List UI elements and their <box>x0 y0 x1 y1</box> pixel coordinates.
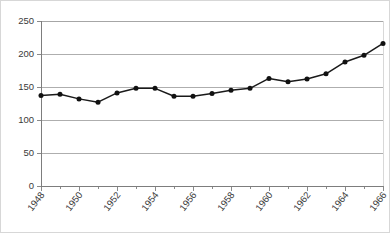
data-point-marker <box>286 79 291 84</box>
x-tick-label: 1964 <box>329 189 351 212</box>
data-point-marker <box>58 92 63 97</box>
y-tick-label: 150 <box>18 81 34 92</box>
data-point-marker <box>267 76 272 81</box>
chart-container: 050100150200250 194819501952195419561958… <box>0 0 390 233</box>
data-point-marker <box>362 53 367 58</box>
data-point-marker <box>248 86 253 91</box>
y-tick-label: 200 <box>18 48 34 59</box>
y-tick-label: 50 <box>23 147 34 158</box>
data-point-marker <box>343 59 348 64</box>
x-tick-label: 1948 <box>25 189 47 212</box>
data-point-marker <box>381 41 386 46</box>
data-point-marker <box>172 94 177 99</box>
y-axis-ticks <box>37 21 41 186</box>
x-axis-ticks <box>41 186 383 191</box>
x-tick-label: 1958 <box>215 189 237 212</box>
x-tick-label: 1956 <box>177 189 199 212</box>
plot-area-background <box>41 21 383 186</box>
y-tick-label: 100 <box>18 114 34 125</box>
x-axis-tick-labels: 1948195019521954195619581960196219641966 <box>25 189 389 212</box>
x-tick-label: 1950 <box>63 189 85 212</box>
data-point-marker <box>324 71 329 76</box>
line-chart: 050100150200250 194819501952195419561958… <box>0 0 390 233</box>
data-point-marker <box>134 86 139 91</box>
data-point-marker <box>39 93 44 98</box>
x-tick-label: 1952 <box>101 189 123 212</box>
data-point-marker <box>77 96 82 101</box>
data-point-marker <box>96 100 101 105</box>
data-point-marker <box>210 91 215 96</box>
data-point-marker <box>305 77 310 82</box>
data-point-marker <box>153 86 158 91</box>
data-point-marker <box>229 88 234 93</box>
y-tick-label: 250 <box>18 15 34 26</box>
x-tick-label: 1962 <box>291 189 313 212</box>
x-tick-label: 1966 <box>367 189 389 212</box>
x-tick-label: 1954 <box>139 189 161 212</box>
data-point-marker <box>115 90 120 95</box>
data-point-marker <box>191 94 196 99</box>
y-tick-label: 0 <box>29 180 34 191</box>
x-tick-label: 1960 <box>253 189 275 212</box>
y-axis-tick-labels: 050100150200250 <box>18 15 34 191</box>
